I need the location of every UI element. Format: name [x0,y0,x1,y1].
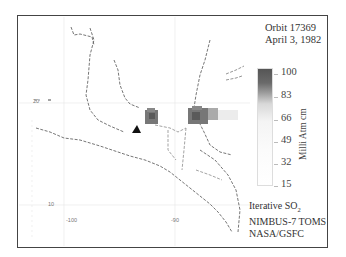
date-label: April 3, 1982 [265,34,321,46]
colorbar-tick-49: 49 [281,134,292,145]
colorbar-tick-100: 100 [281,66,297,77]
tick-mark [274,97,278,98]
tick-mark [274,142,278,143]
so2-plume-east [188,106,238,124]
colorbar-tick-15: 15 [281,178,292,189]
credit-line-1: Iterative SO2 [249,200,326,216]
tick-mark [274,164,278,165]
colorbar-tick-66: 66 [281,112,292,123]
lat-label-10: 10 [48,201,54,207]
so2-plume-west [145,108,158,124]
credits: Iterative SO2 NIMBUS-7 TOMS NASA/GSFC [249,200,326,240]
tick-mark [274,186,278,187]
credit-line-3: NASA/GSFC [249,228,326,240]
colorbar-unit-label: Milli Atm cm [298,108,308,160]
lon-label-100: -100 [66,217,77,223]
orbit-label: Orbit 17369 [265,22,321,34]
colorbar-tick-83: 83 [281,89,292,100]
colorbar-tick-32: 32 [281,156,292,167]
lon-label-90: -90 [171,217,179,223]
lat-label-20: 20 [33,98,39,104]
volcano-marker-icon [132,125,141,133]
tick-mark [274,120,278,121]
tick-mark [274,74,278,75]
colorbar [257,68,273,186]
map-title: Orbit 17369 April 3, 1982 [265,22,321,46]
credit-line-2: NIMBUS-7 TOMS [249,216,326,228]
